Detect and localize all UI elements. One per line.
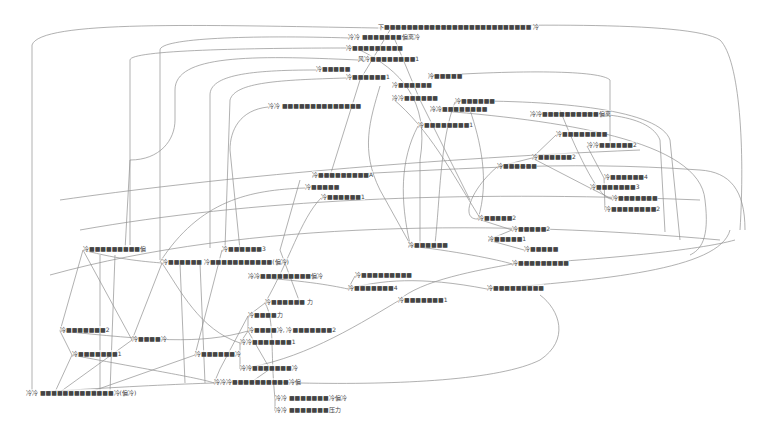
- edge: [392, 98, 480, 218]
- node-label: 冷■■■■■■2: [532, 153, 576, 160]
- edge: [50, 228, 720, 275]
- node-label: 冷■■■■■■: [392, 81, 432, 88]
- node-label: 冷冷冷■■■■■■■■■■冷偏: [214, 378, 301, 385]
- node-label: 冷冷 ■■■■■■■■■■■■■■: [268, 102, 361, 109]
- node-label: 冷■■■■■■■■1: [418, 121, 473, 128]
- node-label: 冷■■■■■■: [455, 97, 495, 104]
- node-label: 冷■■■■■■■■■: [355, 271, 412, 278]
- node-label: 冷■■■■■■■■■: [346, 44, 403, 51]
- edge: [180, 263, 185, 383]
- edge: [265, 198, 321, 303]
- node-label: 冷冷■■■■■■: [392, 94, 438, 101]
- node-label: 冷■■■■■2: [478, 214, 516, 221]
- node-label: 冷■■■■■: [305, 183, 339, 190]
- edges-layer: [0, 0, 758, 438]
- node-label: 冷■■■■■■■■2: [605, 205, 660, 212]
- node-label: 冷■■■■■■■2: [60, 326, 110, 333]
- node-label: 冷冷 ■■■■■■■压力: [275, 406, 341, 413]
- node-label: 冷■■■■■: [316, 65, 350, 72]
- node-label: 冷■■■■■■ 力: [265, 298, 313, 305]
- edge: [280, 180, 300, 303]
- node-label: 冷■■■■■: [524, 245, 558, 252]
- node-label: 冷■■■■■2: [512, 225, 550, 232]
- network-diagram: 下■■■■■■■■■■■■■■■■■■■■■■■■■■ 冷冷冷 ■■■■■■■偏…: [0, 0, 758, 438]
- node-label: 冷■■■■■■: [408, 241, 448, 248]
- node-label: 冷冷■■■■■■■■■■偏离: [530, 110, 611, 117]
- node-label: 冷冷■■■■■■■冷: [240, 364, 298, 371]
- node-label: 冷■■■■■■■■■: [487, 284, 544, 291]
- node-label: 冷冷 ■■■■■■■冷偏冷: [275, 394, 347, 401]
- node-label: 冷■■■■■■■■■A: [312, 171, 373, 178]
- node-label: 风冷■■■■■■■■1: [358, 55, 419, 62]
- node-label: 冷■■■■■■■■■: [512, 259, 569, 266]
- node-label: 冷■■■■■■1: [321, 193, 365, 200]
- edge: [55, 250, 83, 392]
- node-label: 冷■■■■■■■1: [398, 296, 448, 303]
- edge: [587, 146, 605, 210]
- node-label: 冷■■■■■■■■: [556, 130, 607, 137]
- node-label: 冷■■■■■■■■■偏: [83, 245, 146, 252]
- node-label: 冷■■■■■■4: [604, 173, 648, 180]
- node-label: 冷冷■■■■■■2: [587, 141, 637, 148]
- edge: [200, 263, 205, 383]
- edge: [32, 25, 378, 392]
- edge: [72, 355, 214, 383]
- node-label: 冷■■■■■1: [488, 235, 526, 242]
- node-label: 冷■■■■■■: [497, 162, 537, 169]
- node-label: 冷■■■■■■冷: [195, 350, 241, 357]
- node-label: 冷■■■■冷, 冷■■■■■■■2: [248, 326, 336, 333]
- node-label: 冷■■■■■■■3: [590, 183, 640, 190]
- edge: [403, 126, 418, 244]
- edge: [80, 196, 700, 230]
- node-label: 冷■■■■冷: [132, 335, 167, 342]
- node-label: 冷冷■■■■■■■■■偏冷: [248, 272, 323, 279]
- edge: [110, 255, 115, 392]
- node-label: 冷冷■■■■■■■1: [240, 338, 296, 345]
- node-label: 下■■■■■■■■■■■■■■■■■■■■■■■■■■ 冷: [378, 23, 539, 30]
- node-label: 冷■■■■■■1: [346, 73, 390, 80]
- node-label: 冷■■■■■■■: [612, 194, 658, 201]
- edge: [395, 40, 470, 200]
- node-label: 冷■■■■力: [248, 311, 283, 318]
- edge: [130, 48, 350, 245]
- edge: [312, 166, 745, 230]
- edge: [532, 158, 612, 199]
- node-label: 冷冷 ■■■■■■■■■■■■■冷(偏冷): [26, 389, 136, 396]
- node-label: 冷■■■■■: [428, 72, 462, 79]
- node-label: 冷■■■■■■ 冷■■■■■■■■■■■(偏冷): [162, 258, 289, 265]
- node-label: 冷■■■■■■3: [222, 245, 266, 252]
- edge: [408, 246, 512, 264]
- node-label: 冷冷■■■■■■■■: [430, 105, 487, 112]
- node-label: 冷冷 ■■■■■■■偏离冷: [348, 33, 420, 40]
- node-label: 冷■■■■■■■4: [348, 284, 398, 291]
- node-label: 冷■■■■■■■1: [72, 350, 122, 357]
